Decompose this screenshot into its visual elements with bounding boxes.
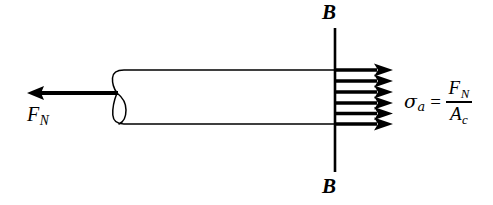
section-label-bottom: B [322,176,336,197]
stress-arrow [336,118,393,131]
stress-arrow-group [336,64,393,131]
applied-force-label: FN [27,104,49,127]
fraction-denominator: Ac [448,104,470,126]
stress-fraction: FN Ac [446,78,472,126]
numerator-symbol: F [449,77,461,98]
denominator-symbol: A [450,103,462,124]
stress-arrow [336,107,393,120]
applied-force-symbol: F [27,103,39,125]
bar-left-cap-ellipse [117,93,126,124]
fraction-numerator: FN [447,78,472,100]
equals-sign: = [430,91,441,113]
load-arrow-left [27,86,118,100]
stress-formula: σa = FN Ac [404,78,472,126]
applied-force-subscript: N [39,113,49,128]
stress-arrow [336,75,393,88]
stress-diagram-figure: B B FN σa = FN Ac [0,0,493,205]
sigma-subscript: a [417,99,425,114]
sigma-icon: σ [404,90,417,112]
stress-symbol-group: σa [404,90,425,115]
section-label-top: B [322,2,336,23]
bar-top-edge [112,70,336,93]
denominator-subscript: c [462,112,468,127]
bar-body [112,70,336,124]
stress-arrow [336,86,393,99]
stress-arrow [336,64,393,77]
stress-arrow [336,97,393,110]
bar-bottom-edge [113,93,336,124]
numerator-subscript: N [460,86,469,101]
